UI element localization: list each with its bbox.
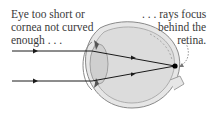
- cause-label: Eye too short or cornea not curved enoug…: [11, 8, 93, 47]
- effect-label-line-3: retina.: [138, 34, 206, 47]
- ray-top-arrow-1: [33, 49, 38, 54]
- eye-diagram: Eye too short or cornea not curved enoug…: [0, 0, 211, 121]
- ray-bottom-arrow-1: [33, 79, 38, 84]
- effect-label-line-2: behind the: [138, 21, 206, 34]
- lens: [90, 44, 108, 84]
- cause-label-line-1: Eye too short or: [11, 8, 93, 21]
- effect-label-line-1: . . . rays focus: [138, 8, 206, 21]
- cause-label-line-3: enough . . .: [11, 34, 93, 47]
- cause-label-line-2: cornea not curved: [11, 21, 93, 34]
- focus-point: [172, 63, 177, 68]
- effect-label: . . . rays focus behind the retina.: [138, 8, 206, 47]
